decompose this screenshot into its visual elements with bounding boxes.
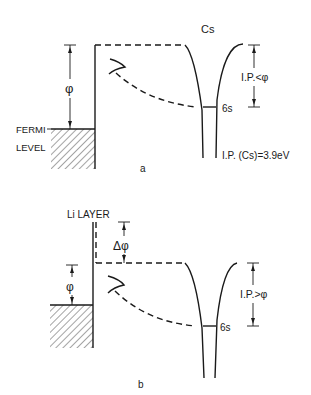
cs-well-left (185, 45, 203, 158)
phi-label: φ (66, 280, 74, 294)
6s-label: 6s (222, 103, 233, 114)
6s-label: 6s (220, 322, 231, 333)
panel-b-caption: b (138, 379, 144, 390)
cs-well-right (215, 263, 237, 378)
atom-label-cs: Cs (201, 23, 215, 35)
cs-well-left (185, 263, 204, 378)
ip-value-label: I.P. (Cs)=3.9eV (222, 150, 290, 161)
ip-comparison-label: I.P.>φ (240, 288, 268, 300)
phi-label: φ (65, 81, 73, 96)
delta-phi-label: Δφ (113, 239, 129, 253)
energy-diagram: Cs φ FERMI LEVEL 6s (0, 0, 311, 395)
panel-b: Li LAYER Δφ φ 6s (50, 209, 268, 390)
ip-comparison-label: I.P.<φ (241, 71, 269, 83)
tunneling-path (116, 73, 196, 107)
tunneling-path (115, 291, 196, 326)
panel-a-caption: a (140, 163, 146, 174)
panel-a: Cs φ FERMI LEVEL 6s (16, 23, 290, 174)
cs-well-right (216, 44, 243, 158)
fermi-label-line1: FERMI (16, 124, 46, 135)
metal-bulk-hatch (51, 129, 95, 169)
metal-bulk-hatch (50, 305, 93, 348)
fermi-label-line2: LEVEL (16, 142, 46, 153)
electron-wave-icon (108, 276, 124, 293)
li-layer-label: Li LAYER (67, 209, 110, 220)
electron-wave-icon (109, 59, 125, 74)
